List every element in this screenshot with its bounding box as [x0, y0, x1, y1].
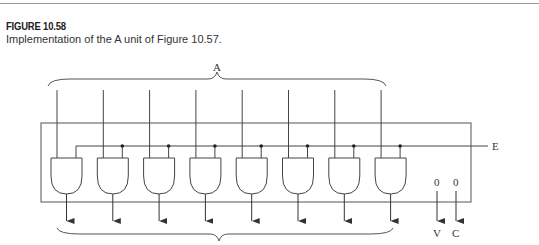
- c-label: C: [452, 227, 459, 239]
- and-gate: [375, 90, 406, 221]
- input-bus-brace: [48, 72, 386, 86]
- and-gate: [329, 90, 360, 221]
- and-gate-array: [51, 90, 406, 221]
- enable-label: E: [492, 140, 499, 152]
- and-gate: [144, 90, 175, 221]
- v-constant: 0: [434, 176, 440, 188]
- input-bus-label: A: [213, 61, 221, 73]
- circuit-diagram: A E 0 0 V C: [0, 0, 539, 245]
- and-gate: [51, 90, 82, 221]
- and-gate: [283, 90, 314, 221]
- enable-line: [76, 146, 488, 158]
- c-constant: 0: [453, 176, 459, 188]
- and-gate: [190, 90, 221, 221]
- and-gate: [97, 90, 128, 221]
- output-bus-brace: [57, 228, 393, 241]
- v-label: V: [433, 227, 441, 239]
- and-gate: [236, 90, 267, 221]
